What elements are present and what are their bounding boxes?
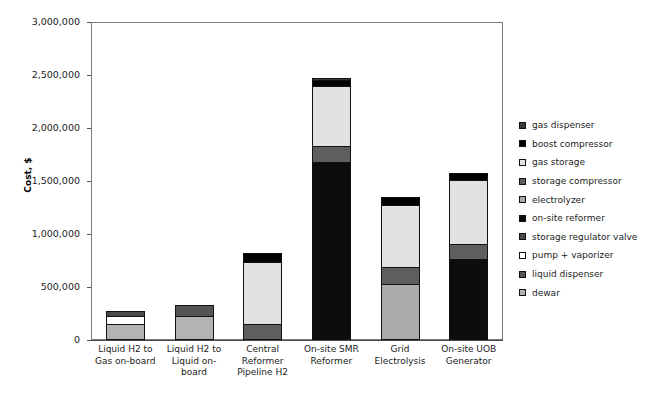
y-axis-tick-label: 3,000,000 [0,16,80,27]
x-axis-tick-labels: Liquid H2 toGas on-boardLiquid H2 toLiqu… [91,344,503,404]
bar-group [243,22,282,340]
y-axis-tick-labels: 0500,0001,000,0001,500,0002,000,0002,500… [0,0,86,407]
x-axis-tick-label-line: Central [228,344,297,356]
bar-segment-boost-comp[interactable] [381,197,420,205]
x-axis-tick-label: CentralReformerPipeline H2 [228,344,297,379]
y-axis-tick-label: 1,500,000 [0,175,80,186]
legend-label: pump + vaporizer [532,250,613,260]
legend-item[interactable]: gas dispenser [519,116,661,135]
bars-layer [91,22,503,340]
x-axis-tick-label-line: Electrolysis [366,356,435,368]
x-axis-tick-label-line: Gas on-board [91,356,160,368]
legend-item[interactable]: dewar [519,283,661,302]
x-axis-line [91,340,503,341]
legend-item[interactable]: pump + vaporizer [519,246,661,265]
legend-swatch-liquid-disp-icon [519,271,526,278]
x-axis-tick-label-line: Liquid H2 to [91,344,160,356]
bar-group [449,22,488,340]
bar-stack[interactable] [449,173,488,340]
bar-segment-liquid-disp[interactable] [175,305,214,316]
bar-segment-gas-storage[interactable] [312,86,351,146]
legend-label: on-site reformer [532,213,605,223]
legend-label: gas dispenser [532,120,595,130]
bar-segment-boost-comp[interactable] [243,253,282,262]
y-axis-tick-label: 2,500,000 [0,69,80,80]
legend-item[interactable]: liquid dispenser [519,265,661,284]
legend-label: electrolyzer [532,195,585,205]
bar-segment-stor-comp[interactable] [312,146,351,162]
legend-swatch-gas-disp-icon [519,122,526,129]
chart-legend: gas dispenserboost compressorgas storage… [519,116,661,302]
bar-segment-electrolyzer[interactable] [381,284,420,340]
legend-label: boost compressor [532,139,612,149]
x-axis-tick-label-line: Liquid on-board [160,356,229,379]
bar-segment-pump-vap[interactable] [106,316,145,324]
y-axis-tick-label: 1,000,000 [0,228,80,239]
bar-stack[interactable] [243,253,282,340]
bar-segment-stor-comp[interactable] [381,267,420,283]
legend-item[interactable]: gas storage [519,153,661,172]
bar-group [175,22,214,340]
legend-swatch-boost-comp-icon [519,140,526,147]
legend-swatch-dewar-icon [519,289,526,296]
stacked-bar-chart: Cost, $ 0500,0001,000,0001,500,0002,000,… [0,0,663,407]
legend-item[interactable]: electrolyzer [519,190,661,209]
x-axis-tick-label: GridElectrolysis [366,344,435,367]
legend-label: storage compressor [532,176,622,186]
bar-segment-dewar[interactable] [106,324,145,340]
legend-label: storage regulator valve [532,232,637,242]
bar-group [381,22,420,340]
bar-group [106,22,145,340]
legend-swatch-pump-vap-icon [519,252,526,259]
x-axis-tick-label-line: Pipeline H2 [228,367,297,379]
y-axis-tick-label: 2,000,000 [0,122,80,133]
x-axis-tick-label-line: Generator [434,356,503,368]
x-axis-tick-label: Liquid H2 toGas on-board [91,344,160,367]
x-axis-tick-label-line: Liquid H2 to [160,344,229,356]
legend-swatch-gas-storage-icon [519,159,526,166]
legend-item[interactable]: storage regulator valve [519,228,661,247]
legend-label: gas storage [532,157,585,167]
bar-segment-stor-comp[interactable] [449,244,488,260]
x-axis-tick-label-line: Reformer [228,356,297,368]
legend-label: liquid dispenser [532,269,603,279]
x-axis-tick-label-line: On-site UOB [434,344,503,356]
bar-stack[interactable] [312,78,351,340]
legend-swatch-stor-comp-icon [519,178,526,185]
legend-item[interactable]: on-site reformer [519,209,661,228]
legend-swatch-stor-reg-icon [519,233,526,240]
legend-item[interactable]: boost compressor [519,135,661,154]
legend-label: dewar [532,288,560,298]
x-axis-tick-label-line: Grid [366,344,435,356]
bar-segment-boost-comp[interactable] [449,173,488,180]
bar-segment-dewar[interactable] [175,316,214,340]
bar-segment-onsite-ref[interactable] [449,259,488,340]
legend-item[interactable]: storage compressor [519,172,661,191]
bar-stack[interactable] [175,305,214,341]
bar-segment-onsite-ref[interactable] [312,162,351,340]
legend-swatch-electrolyzer-icon [519,196,526,203]
bar-segment-stor-comp[interactable] [243,324,282,340]
x-axis-tick-label-line: On-site SMR [297,344,366,356]
x-axis-tick-label: On-site SMRReformer [297,344,366,367]
bar-segment-gas-storage[interactable] [449,180,488,244]
y-axis-tick-label: 0 [0,334,80,345]
x-axis-tick-label: On-site UOBGenerator [434,344,503,367]
bar-group [312,22,351,340]
bar-stack[interactable] [381,197,420,340]
bar-segment-gas-storage[interactable] [243,262,282,323]
bar-stack[interactable] [106,311,145,340]
legend-swatch-onsite-ref-icon [519,215,526,222]
x-axis-tick-label: Liquid H2 toLiquid on-board [160,344,229,379]
bar-segment-gas-storage[interactable] [381,205,420,268]
x-axis-tick-label-line: Reformer [297,356,366,368]
y-axis-tick-label: 500,000 [0,281,80,292]
